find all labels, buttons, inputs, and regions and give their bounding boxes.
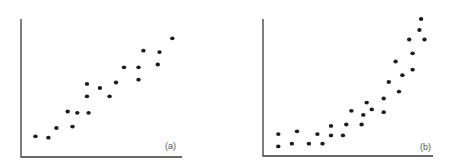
figure: (a) (b)	[0, 0, 451, 167]
points-b	[276, 17, 427, 148]
panel-label-a: (a)	[165, 141, 176, 151]
data-point	[344, 123, 348, 127]
data-point	[359, 123, 363, 127]
data-point	[86, 111, 90, 115]
data-point	[85, 82, 89, 86]
data-point	[397, 90, 401, 94]
data-point	[382, 110, 386, 114]
data-point	[170, 36, 174, 40]
data-point	[66, 110, 70, 114]
data-point	[382, 97, 386, 101]
data-point	[393, 60, 397, 64]
data-point	[400, 73, 404, 77]
data-point	[70, 125, 74, 129]
data-point	[387, 80, 391, 84]
data-point	[365, 101, 369, 105]
data-point	[407, 38, 411, 42]
points-a	[33, 36, 174, 139]
data-point	[370, 108, 374, 112]
data-point	[157, 50, 161, 54]
data-point	[114, 81, 118, 85]
data-point	[276, 132, 280, 136]
data-point	[295, 129, 299, 133]
data-point	[54, 126, 58, 130]
data-point	[156, 63, 160, 67]
data-point	[33, 134, 37, 138]
data-point	[329, 134, 333, 138]
data-point	[136, 65, 140, 69]
data-point	[419, 17, 423, 21]
data-point	[98, 86, 102, 90]
data-point	[75, 111, 79, 115]
data-point	[276, 145, 280, 149]
data-point	[341, 134, 345, 138]
data-point	[349, 109, 353, 113]
data-point	[46, 136, 50, 140]
scatter-panel-a: (a)	[21, 19, 182, 157]
data-point	[122, 65, 126, 69]
data-point	[307, 142, 311, 146]
data-point	[410, 68, 414, 72]
data-point	[320, 142, 324, 146]
data-point	[141, 49, 145, 53]
data-point	[361, 113, 365, 117]
data-point	[329, 124, 333, 128]
panel-label-b: (b)	[420, 142, 431, 152]
data-point	[410, 51, 414, 55]
data-point	[85, 94, 89, 98]
data-point	[290, 142, 294, 146]
scatter-panel-b: (b)	[263, 17, 433, 156]
data-point	[107, 94, 111, 98]
data-point	[136, 78, 140, 82]
data-point	[315, 132, 319, 136]
data-point	[422, 38, 426, 42]
data-point	[417, 28, 421, 32]
